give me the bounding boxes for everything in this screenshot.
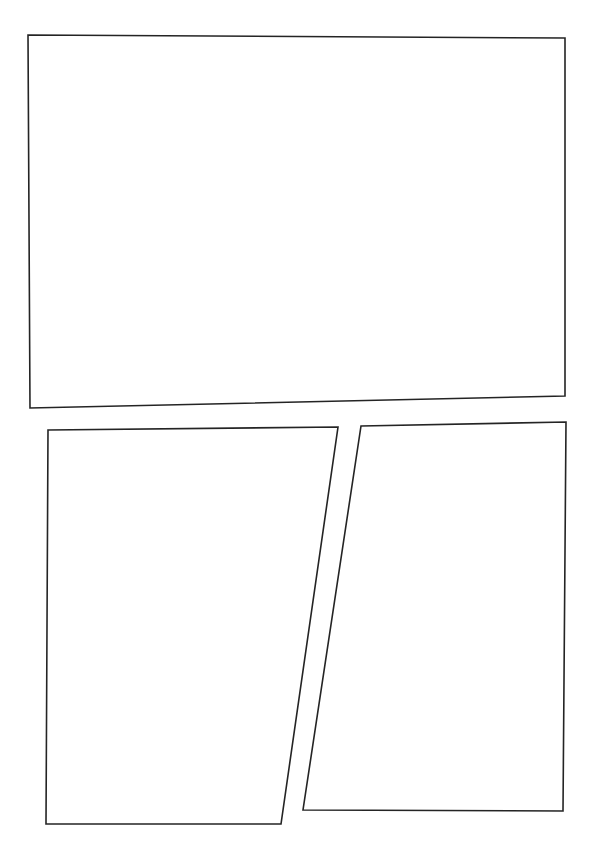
comic-panel-3[interactable]	[303, 422, 566, 811]
comic-panel-2[interactable]	[46, 427, 338, 824]
comic-page: Panel 1 Panel 2 Panel 3 Blank Comic Page…	[0, 0, 594, 846]
panel-canvas	[0, 0, 594, 846]
comic-panel-1[interactable]	[28, 35, 565, 408]
